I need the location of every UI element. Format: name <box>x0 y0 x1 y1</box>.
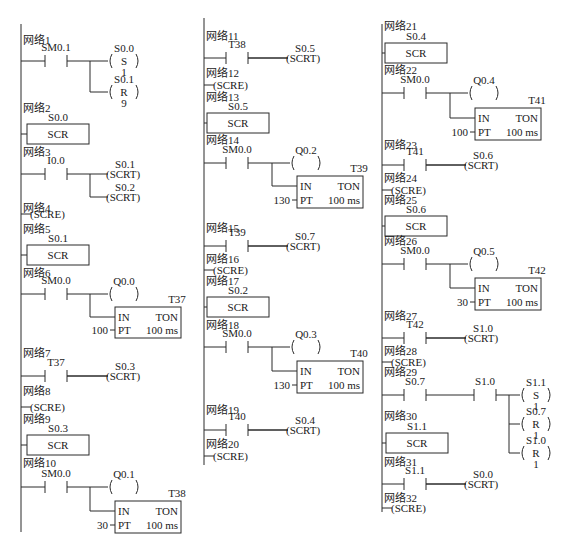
contact-operand: T38 <box>228 38 246 50</box>
timer-name: T38 <box>168 487 186 499</box>
coil-right-paren <box>548 446 550 460</box>
output-coil-icon: Q0.2 <box>292 144 320 170</box>
contact-no-icon: SM0.0 <box>41 274 71 300</box>
coil-right-paren <box>136 85 138 99</box>
coil-left-paren <box>292 340 294 354</box>
network-31: 网络31S1.1S0.0(SCRT) <box>382 455 499 491</box>
timer-in-label: IN <box>118 311 130 323</box>
network-18: 网络18SM0.0Q0.3T40INTONPT100 ms130 <box>204 318 368 393</box>
ladder-diagram: 网络1SM0.1S0.0S1S0.1R9网络2S0.0SCR网络3I0.0S0.… <box>0 0 565 550</box>
scr-label: SCR <box>407 437 428 449</box>
coil-count: 9 <box>121 97 127 109</box>
scrt-instruction: (SCRT) <box>464 159 499 172</box>
reset-coil-icon: S1.0R1 <box>522 434 550 470</box>
coil-operand: Q0.0 <box>113 275 135 287</box>
timer-preset: 30 <box>457 296 469 308</box>
output-coil-icon: Q0.1 <box>110 468 138 494</box>
scr-label: SCR <box>48 249 69 261</box>
coil-left-paren <box>522 417 524 431</box>
coil-operand: Q0.2 <box>295 144 317 156</box>
timer-in-label: IN <box>300 365 312 377</box>
contact-no-icon: SM0.0 <box>400 73 430 99</box>
timer-type: TON <box>156 505 178 517</box>
output-coil-icon: Q0.3 <box>292 328 320 354</box>
coil-operand: S0.0 <box>114 42 134 54</box>
reset-coil-icon: S0.1R9 <box>110 73 138 109</box>
coil-operand: Q0.1 <box>113 468 135 480</box>
scrt-coil-icon: S0.1(SCRT) <box>106 158 141 181</box>
network-9: 网络9S0.3SCR <box>21 412 89 455</box>
network-6: 网络6SM0.0Q0.0T37INTONPT100 ms100 <box>21 266 186 338</box>
scrt-instruction: (SCRT) <box>106 370 141 383</box>
coil-right-paren <box>136 480 138 494</box>
scrt-coil-icon: S0.6(SCRT) <box>464 149 499 172</box>
network-15: 网络15T39S0.7(SCRT) <box>204 221 321 253</box>
scre-instruction: (SCRE) <box>30 208 65 221</box>
scre-instruction: (SCRE) <box>213 450 248 463</box>
coil-left-paren <box>522 446 524 460</box>
coil-operand: Q0.4 <box>473 74 495 86</box>
network-27: 网络27T42S1.0(SCRT) <box>382 309 499 345</box>
coil-right-paren <box>136 54 138 68</box>
timer-in-label: IN <box>478 282 490 294</box>
scr-label: SCR <box>406 47 427 59</box>
scrt-instruction: (SCRT) <box>106 168 141 181</box>
contact-operand: SM0.0 <box>400 73 430 85</box>
scr-label: SCR <box>228 301 249 313</box>
timer-type: TON <box>156 311 178 323</box>
contact-no-icon: S1.0 <box>474 375 496 401</box>
contact-operand: T37 <box>47 356 65 368</box>
contact-operand: T42 <box>406 318 424 330</box>
scrt-coil-icon: S1.0(SCRT) <box>464 322 499 345</box>
scr-operand: S1.1 <box>407 420 427 432</box>
timer-name: T41 <box>528 94 546 106</box>
scrt-coil-icon: S0.5(SCRT) <box>286 42 321 65</box>
scr-operand: S0.5 <box>228 100 248 112</box>
timer-base: 100 ms <box>146 519 178 531</box>
contact-no-icon: I0.0 <box>45 154 67 180</box>
contact-operand: SM0.0 <box>400 244 430 256</box>
timer-name: T39 <box>350 162 368 174</box>
timer-base: 100 ms <box>506 126 538 138</box>
network-label: 网络8 <box>23 384 51 397</box>
scre-instruction: (SCRE) <box>391 502 426 515</box>
network-19: 网络19T40S0.4(SCRT) <box>204 403 321 437</box>
timer-ton-block: T41INTONPT100 ms100 <box>452 94 546 140</box>
contact-no-icon: SM0.0 <box>41 467 71 493</box>
scrt-instruction: (SCRT) <box>286 52 321 65</box>
scr-operand: S0.2 <box>228 284 248 296</box>
network-10: 网络10SM0.0Q0.1T38INTONPT100 ms30 <box>21 456 186 533</box>
timer-pt-label: PT <box>118 519 131 531</box>
network-20: 网络20(SCRE) <box>204 437 248 463</box>
timer-in-label: IN <box>300 180 312 192</box>
scr-operand: S0.1 <box>48 232 68 244</box>
timer-name: T40 <box>350 347 368 359</box>
timer-type: TON <box>516 112 538 124</box>
contact-operand: S1.0 <box>475 375 495 387</box>
coil-right-paren <box>318 156 320 170</box>
timer-base: 100 ms <box>506 296 538 308</box>
timer-type: TON <box>338 180 360 192</box>
network-5: 网络5S0.1SCR <box>21 222 89 265</box>
coil-left-paren <box>470 257 472 271</box>
network-1: 网络1SM0.1S0.0S1S0.1R9 <box>21 33 138 109</box>
coil-operand: Q0.3 <box>295 328 317 340</box>
contact-no-icon: SM0.1 <box>41 41 71 67</box>
timer-ton-block: T40INTONPT100 ms130 <box>274 347 369 393</box>
network-22: 网络22SM0.0Q0.4T41INTONPT100 ms100 <box>382 63 546 140</box>
coil-right-paren <box>318 340 320 354</box>
network-21: 网络21S0.4SCR <box>382 19 447 63</box>
network-11: 网络11T38S0.5(SCRT) <box>204 29 321 65</box>
ladder-column-3: 网络21S0.4SCR网络22SM0.0Q0.4T41INTONPT100 ms… <box>382 19 550 515</box>
coil-right-paren <box>548 388 550 402</box>
network-label: 网络9 <box>23 412 51 425</box>
network-label: 网络24 <box>384 171 418 184</box>
ladder-column-2: 网络11T38S0.5(SCRT)网络12(SCRE)网络13S0.5SCR网络… <box>204 18 368 465</box>
coil-right-paren <box>136 287 138 301</box>
coil-right-paren <box>496 257 498 271</box>
network-25: 网络25S0.6SCR <box>382 193 447 236</box>
network-label: 网络12 <box>206 66 239 79</box>
contact-operand: T39 <box>228 226 246 238</box>
contact-operand: SM0.0 <box>222 327 252 339</box>
network-2: 网络2S0.0SCR <box>21 101 89 144</box>
